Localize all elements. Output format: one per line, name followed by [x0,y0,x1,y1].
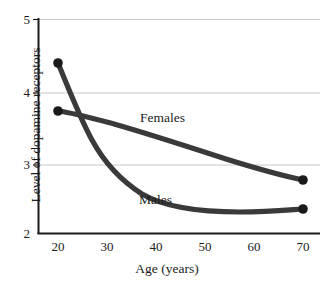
dopamine-receptors-chart: 5 4 3 2 20 30 40 50 60 70 Age (years) Le… [0,0,334,285]
marker-females-start [53,106,63,116]
series-label-males: Males [139,193,172,207]
marker-females-end [298,175,308,185]
x-tick-label-60: 60 [239,240,269,253]
marker-males-start [53,58,63,68]
x-axis-title: Age (years) [0,262,334,276]
series-label-females: Females [140,111,185,125]
x-tick-label-50: 50 [190,240,220,253]
y-tick-label-5: 5 [16,13,30,26]
series-line-males [58,63,303,212]
x-tick-label-20: 20 [43,240,73,253]
x-tick-label-70: 70 [288,240,318,253]
y-tick-label-2: 2 [16,227,30,240]
y-axis-title: Level of dopamine receptors [29,25,43,225]
x-tick-label-40: 40 [141,240,171,253]
marker-males-end [298,204,308,214]
x-tick-label-30: 30 [92,240,122,253]
